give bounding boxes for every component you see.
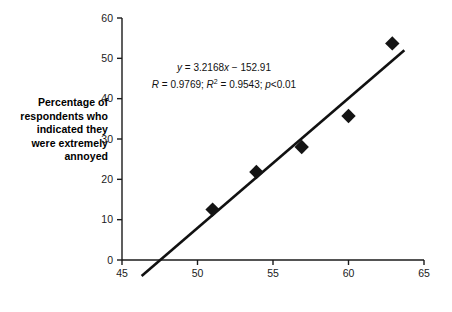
- data-markers: [205, 36, 399, 217]
- x-tick-label: 65: [418, 267, 430, 279]
- x-tick-label: 50: [192, 267, 204, 279]
- data-point-marker: [249, 165, 263, 179]
- x-tick-label: 60: [343, 267, 355, 279]
- regression-trendline: [142, 50, 405, 276]
- chart-figure: Percentage of respondents who indicated …: [0, 0, 452, 312]
- data-point-marker: [205, 202, 219, 216]
- y-tick-label: 60: [101, 12, 113, 24]
- x-axis-ticks: 4550556065: [116, 260, 430, 279]
- chart-plot-area: 0102030405060 4550556065: [0, 0, 452, 312]
- y-axis-ticks: 0102030405060: [101, 12, 122, 266]
- y-tick-label: 50: [101, 52, 113, 64]
- data-point-marker: [341, 109, 355, 123]
- axes-group: [122, 18, 424, 260]
- trendline-segment: [142, 50, 405, 276]
- y-tick-label: 10: [101, 213, 113, 225]
- y-tick-label: 30: [101, 133, 113, 145]
- x-tick-label: 55: [267, 267, 279, 279]
- data-point-marker: [385, 36, 399, 50]
- y-tick-label: 0: [107, 254, 113, 266]
- y-tick-label: 20: [101, 173, 113, 185]
- x-tick-label: 45: [116, 267, 128, 279]
- y-tick-label: 40: [101, 92, 113, 104]
